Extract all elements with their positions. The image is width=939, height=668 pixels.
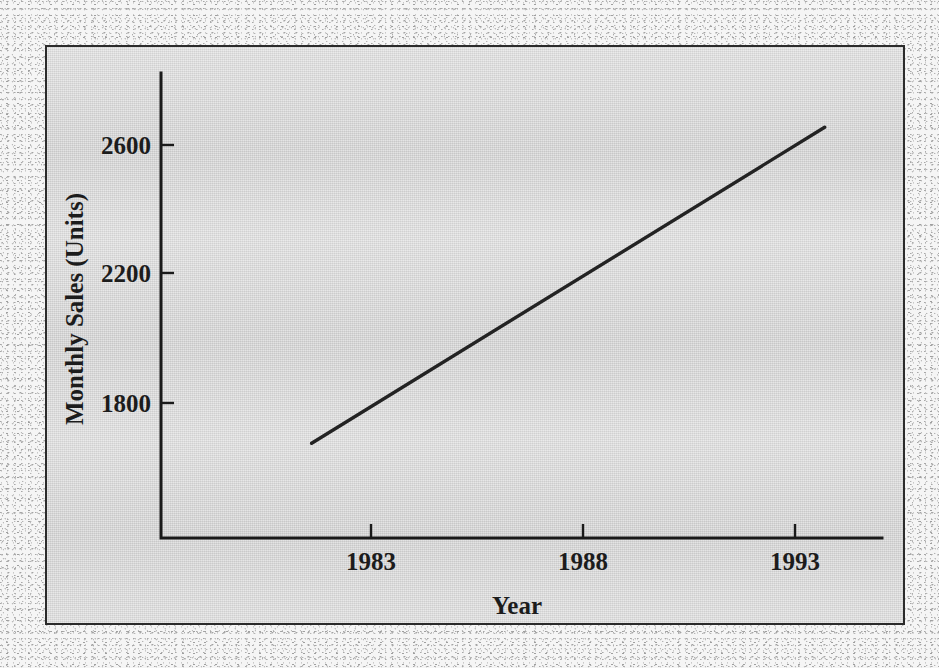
chart-axes	[161, 73, 882, 538]
y-axis-title: Monthly Sales (Units)	[61, 193, 89, 425]
y-tick-label-2600: 2600	[101, 132, 151, 159]
sales-trend-line	[312, 127, 825, 443]
figure-panel: 2600 2200 1800 1983 1988 1993 Year Month…	[45, 45, 905, 625]
y-tick-label-2200: 2200	[101, 260, 151, 287]
x-tick-label-1993: 1993	[770, 548, 820, 575]
line-chart: 2600 2200 1800 1983 1988 1993 Year Month…	[47, 47, 903, 623]
x-axis-title: Year	[492, 592, 542, 619]
figure-page: 2600 2200 1800 1983 1988 1993 Year Month…	[0, 0, 939, 668]
y-tick-label-1800: 1800	[101, 390, 151, 417]
x-tick-label-1988: 1988	[558, 548, 608, 575]
x-tick-label-1983: 1983	[346, 548, 396, 575]
